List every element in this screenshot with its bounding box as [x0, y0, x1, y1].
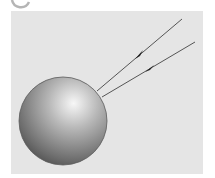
diagram [0, 0, 215, 178]
sphere [19, 77, 107, 165]
badge-ring-icon [12, 0, 29, 7]
